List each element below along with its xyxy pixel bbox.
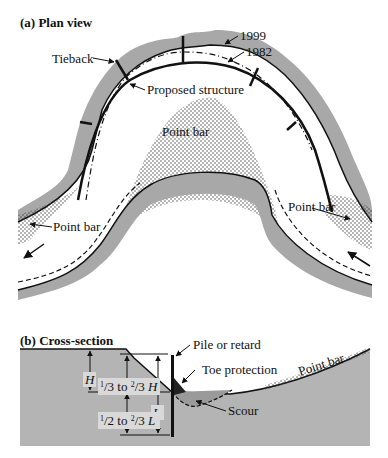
leader-1982 bbox=[228, 52, 244, 62]
flow-arrow-right bbox=[348, 252, 370, 266]
pile bbox=[171, 355, 174, 437]
label-scour: Scour bbox=[228, 403, 259, 418]
flow-arrow-left bbox=[24, 244, 44, 258]
label-1982: 1982 bbox=[246, 44, 272, 59]
leader-proposed-structure bbox=[130, 84, 145, 90]
label-H: H bbox=[84, 372, 95, 387]
label-proposed-structure: Proposed structure bbox=[147, 82, 244, 97]
inner-bank bbox=[18, 172, 372, 300]
label-toe: Toe protection bbox=[202, 362, 278, 377]
label-third-H: 1/3 to 2/3 H bbox=[100, 379, 158, 394]
label-half-L: 1/2 to 2/3 L bbox=[100, 413, 155, 428]
label-tieback: Tieback bbox=[52, 51, 94, 66]
diagram-canvas: (a) Plan view 1999 1982 Tieback Proposed… bbox=[0, 0, 388, 458]
leader-pile bbox=[176, 345, 190, 356]
panel-b-title: (b) Cross-section bbox=[20, 333, 114, 348]
label-point-bar-center: Point bar bbox=[162, 124, 210, 139]
panel-a-title: (a) Plan view bbox=[20, 15, 93, 30]
label-1999: 1999 bbox=[240, 28, 266, 43]
label-pile: Pile or retard bbox=[193, 337, 261, 352]
leader-tieback bbox=[93, 58, 114, 62]
label-point-bar-right: Point bar bbox=[288, 199, 336, 214]
leader-toe bbox=[182, 370, 195, 383]
label-point-bar-left: Point bar bbox=[53, 219, 101, 234]
